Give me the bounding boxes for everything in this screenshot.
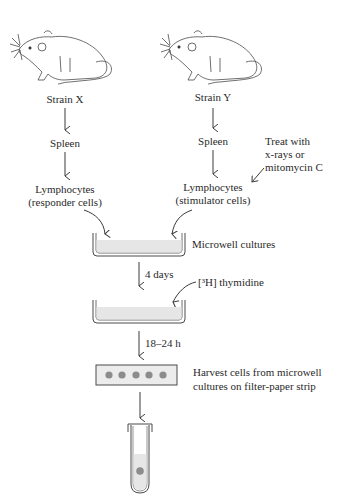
lymphocytes-y-label: Lymphocytes (163, 181, 263, 193)
microwell-labeled-icon (93, 300, 185, 323)
incubation-4-days-label: 4 days (145, 268, 173, 280)
strain-y-label: Strain Y (183, 91, 243, 103)
treatment-label-line1: Treat with (265, 135, 310, 147)
microwell-cultures-label: Microwell cultures (192, 238, 275, 250)
arrow-treatment (252, 168, 264, 182)
stimulator-cells-label: (stimulator cells) (163, 194, 263, 206)
strain-x-label: Strain X (35, 93, 95, 105)
responder-cells-label: (responder cells) (15, 196, 115, 208)
diagram-artwork (0, 0, 346, 499)
spleen-x-label: Spleen (35, 137, 95, 149)
microwell-culture-icon (93, 233, 185, 256)
mouse-strain-x-icon (10, 31, 111, 84)
arrow-stimulator-to-well (172, 210, 192, 234)
harvest-label-line1: Harvest cells from microwell (193, 366, 322, 378)
treatment-label-line3: mitomycin C (265, 161, 323, 173)
arrow-thymidine (173, 282, 196, 302)
filter-paper-strip-icon (96, 365, 177, 385)
incubation-18-24-h-label: 18–24 h (145, 337, 181, 349)
mouse-strain-y-icon (160, 31, 261, 84)
lymphocytes-x-label: Lymphocytes (15, 183, 115, 195)
thymidine-label: [³H] thymidine (198, 276, 264, 288)
harvest-label-line2: cultures on filter-paper strip (193, 380, 316, 392)
spleen-y-label: Spleen (183, 135, 243, 147)
scintillation-tube-icon (128, 424, 152, 493)
treatment-label-line2: x-rays or (265, 148, 304, 160)
arrow-responder-to-well (84, 210, 105, 234)
